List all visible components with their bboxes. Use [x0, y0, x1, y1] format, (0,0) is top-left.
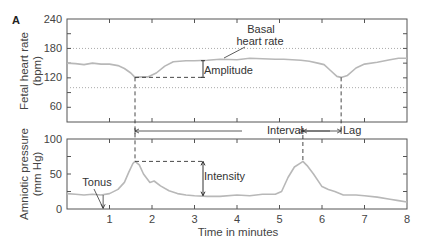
x-tick-1: 1	[106, 213, 112, 225]
panel-letter: A	[12, 14, 20, 26]
x-tick-5: 5	[276, 213, 282, 225]
annotation-heart-rate: heart rate	[236, 35, 283, 47]
y-axis-label-pressure-line1: Amniotic pressure	[18, 128, 30, 220]
chart-text-layer: A 240 180 120 60 Fetal heart rate (bpm) …	[0, 0, 431, 246]
x-tick-6: 6	[319, 213, 325, 225]
annotation-interval: Interval	[267, 124, 303, 136]
x-tick-4: 4	[234, 213, 240, 225]
y-axis-label-pressure-line2: (mm Hg)	[31, 151, 43, 196]
annotation-lag: Lag	[343, 124, 361, 136]
annotation-intensity: Intensity	[204, 170, 245, 182]
x-tick-2: 2	[149, 213, 155, 225]
annotation-amplitude: Amplitude	[204, 64, 253, 76]
x-tick-7: 7	[361, 213, 367, 225]
x-axis-label: Time in minutes	[198, 226, 279, 238]
x-tick-8: 8	[404, 213, 410, 225]
annotation-basal: Basal	[247, 23, 275, 35]
y-tick-180: 180	[44, 42, 62, 54]
y-tick-60: 60	[50, 100, 62, 112]
y-axis-label-fhr-line2: (bpm)	[31, 56, 43, 86]
x-tick-3: 3	[191, 213, 197, 225]
annotation-tonus: Tonus	[82, 176, 112, 188]
y-tick-50: 50	[50, 168, 62, 180]
y-tick-240: 240	[44, 13, 62, 25]
y-tick-120: 120	[44, 71, 62, 83]
y-axis-label-fhr-line1: Fetal heart rate	[18, 32, 30, 110]
y-tick-100: 100	[44, 133, 62, 145]
y-tick-0: 0	[56, 203, 62, 215]
